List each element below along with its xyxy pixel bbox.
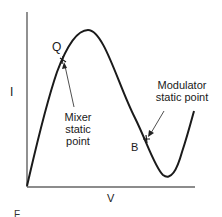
modulator-annotation-line-1: Modulator xyxy=(145,79,219,91)
modulator-annotation: Modulator static point xyxy=(145,79,219,103)
mixer-annotation-line-1: Mixer xyxy=(56,111,100,123)
figure-caption-fragment: F xyxy=(14,209,20,217)
modulator-arrow-head xyxy=(148,130,154,137)
x-axis-label: V xyxy=(107,192,114,204)
mixer-arrow-head xyxy=(62,62,67,69)
diagram-canvas xyxy=(0,0,222,217)
point-b-label: B xyxy=(131,141,138,153)
mixer-annotation: Mixer static point xyxy=(56,111,100,147)
point-q-label: Q xyxy=(52,41,61,53)
modulator-arrow-line xyxy=(151,111,164,133)
iv-characteristic-diagram: I V Q B Mixer static point Modulator sta… xyxy=(0,0,222,217)
mixer-annotation-line-3: point xyxy=(56,135,100,147)
y-axis-label: I xyxy=(10,86,13,98)
mixer-annotation-line-2: static xyxy=(56,123,100,135)
modulator-annotation-line-2: static point xyxy=(145,91,219,103)
mixer-arrow-line xyxy=(65,66,74,107)
